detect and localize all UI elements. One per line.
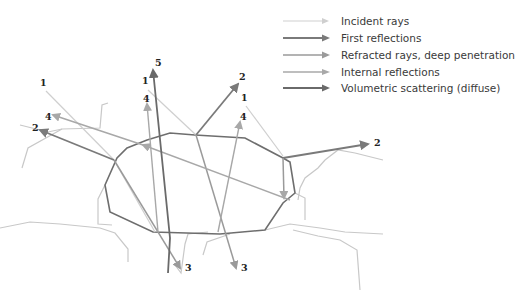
ray-label: 5 <box>155 57 162 68</box>
ray-label: 2 <box>374 137 381 148</box>
legend-label: First reflections <box>341 30 421 46</box>
ray-label: 2 <box>32 122 39 133</box>
ray-label: 4 <box>240 111 247 122</box>
legend-label: Incident rays <box>341 13 409 29</box>
arrow-icon <box>280 30 332 46</box>
legend-label: Refracted rays, deep penetration <box>341 47 515 63</box>
legend-item-incident-rays: Incident rays <box>280 13 518 29</box>
legend-item-first-reflections: First reflections <box>280 30 518 46</box>
legend-item-refracted-rays: Refracted rays, deep penetration <box>280 47 518 63</box>
ray-label: 1 <box>40 77 47 88</box>
ray-label: 1 <box>241 92 248 103</box>
ray-label: 4 <box>45 111 52 122</box>
ray-label: 2 <box>239 71 246 82</box>
ray-label: 3 <box>241 262 248 273</box>
arrow-icon <box>280 13 332 29</box>
legend-label: Volumetric scattering (diffuse) <box>341 80 500 96</box>
legend-label: Internal reflections <box>341 64 440 80</box>
arrow-icon <box>280 47 332 63</box>
ray-label: 3 <box>185 262 192 273</box>
legend-item-volumetric-scattering: Volumetric scattering (diffuse) <box>280 80 518 96</box>
arrow-icon <box>280 80 332 96</box>
volumetric-scattering <box>153 70 170 273</box>
refracted-rays <box>114 135 284 268</box>
ray-label: 4 <box>143 93 150 104</box>
incident-rays <box>46 90 283 232</box>
legend-item-internal-reflections: Internal reflections <box>280 64 518 80</box>
arrow-icon <box>280 64 332 80</box>
internal-reflections <box>53 104 290 232</box>
ray-label: 1 <box>142 75 149 86</box>
